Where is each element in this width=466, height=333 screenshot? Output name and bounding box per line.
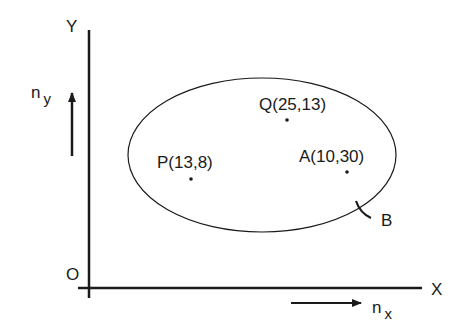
x-axis-label: X (431, 281, 442, 298)
boundary-pointer (356, 201, 371, 218)
ny-label: ny (31, 84, 51, 101)
point-q-dot (285, 118, 289, 122)
ny-base: n (31, 83, 40, 102)
nx-label: nx (372, 299, 392, 316)
nx-subscript: x (384, 305, 392, 322)
point-a-label: A(10,30) (299, 148, 364, 165)
ny-subscript: y (43, 90, 51, 107)
point-p-label: P(13,8) (157, 154, 213, 171)
point-a-dot (345, 170, 349, 174)
boundary-label: B (381, 212, 392, 229)
point-p-dot (189, 177, 193, 181)
origin-label: O (66, 266, 79, 283)
point-q-label: Q(25,13) (259, 96, 326, 113)
y-axis-label: Y (66, 18, 77, 35)
nx-base: n (372, 298, 381, 317)
